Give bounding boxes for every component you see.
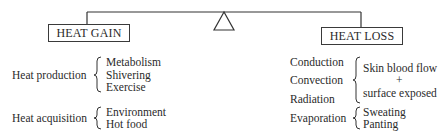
- item-skin-blood-flow: Skin blood flow: [363, 62, 437, 74]
- item-plus: +: [396, 74, 403, 86]
- item-hot-food: Hot food: [106, 118, 147, 130]
- heat-gain-box: HEAT GAIN: [48, 24, 130, 42]
- mechanism-convection: Convection: [290, 74, 343, 86]
- item-sweating: Sweating: [363, 106, 406, 118]
- brace-skin-blood-flow: [353, 57, 360, 103]
- item-exercise: Exercise: [106, 81, 146, 93]
- brace-heat-acquisition: [94, 107, 101, 129]
- item-metabolism: Metabolism: [106, 56, 161, 68]
- item-shivering: Shivering: [106, 69, 151, 81]
- item-environment: Environment: [106, 106, 166, 118]
- mechanism-radiation: Radiation: [290, 93, 335, 105]
- fulcrum-triangle-icon: [214, 12, 234, 30]
- item-surface-exposed: surface exposed: [363, 87, 437, 99]
- mechanism-evaporation: Evaporation: [290, 112, 346, 124]
- mechanism-conduction: Conduction: [290, 56, 344, 68]
- heat-loss-box: HEAT LOSS: [321, 27, 403, 45]
- brace-evaporation: [353, 107, 360, 129]
- heat-acquisition-label: Heat acquisition: [12, 112, 87, 124]
- heat-production-label: Heat production: [12, 69, 86, 81]
- item-panting: Panting: [363, 118, 398, 130]
- brace-heat-production: [94, 57, 101, 92]
